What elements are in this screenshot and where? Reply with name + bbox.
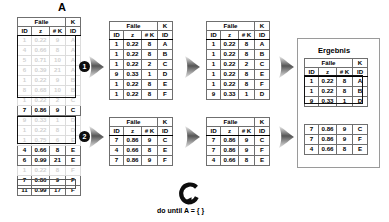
cell-z: 0.66	[32, 146, 50, 156]
table-row: 10.228B	[110, 50, 173, 60]
table-row: 40.668E	[207, 156, 270, 166]
step-badge-1: 1	[79, 61, 90, 72]
table-row: 40.668E	[305, 145, 368, 155]
header-id: ID	[110, 127, 124, 136]
cell-z: 0.22	[221, 60, 239, 70]
cell-kid: F	[66, 166, 81, 176]
stage2-bottom-header-group: Fälle K	[110, 118, 173, 127]
header-k: K	[158, 118, 173, 127]
table-row: 70.869F	[18, 176, 81, 186]
cell-z: 0.75	[32, 136, 50, 146]
header-k: K	[158, 22, 173, 31]
cell-kcount: 8	[337, 87, 353, 97]
cell-kid: D	[66, 116, 81, 126]
cell-z: 0.22	[124, 90, 142, 100]
cell-id: 1	[18, 36, 32, 46]
table-row: 70.869C	[207, 136, 270, 146]
header-kcount: # K	[142, 31, 158, 40]
cell-z: 0.66	[319, 145, 337, 155]
loop-caption: do until A = { }	[157, 207, 204, 214]
table-stage3-top: Fälle K ID z # K ID 10.228A10.228B10.222…	[206, 21, 270, 100]
cell-kcount: 8	[142, 90, 158, 100]
cell-z: 0.22	[32, 96, 50, 106]
cell-z: 0.22	[32, 166, 50, 176]
cell-kid: E	[66, 156, 81, 166]
cell-id: 1	[207, 50, 221, 60]
header-kcount: # K	[142, 127, 158, 136]
cell-id: 4	[305, 145, 319, 155]
cell-id: 7	[305, 125, 319, 135]
cell-kid: F	[158, 156, 173, 166]
result-top-header-sub: ID z # K ID	[305, 68, 368, 77]
table-row: 90.331D	[110, 70, 173, 80]
stage2-top-header-sub: ID z # K ID	[110, 31, 173, 40]
cell-kcount: 1	[142, 70, 158, 80]
stage3-bottom-body: 70.869C70.869F40.668E	[207, 136, 270, 166]
cell-kid: E	[158, 80, 173, 90]
cell-z: 0.33	[32, 116, 50, 126]
cell-z: 0.99	[32, 156, 50, 166]
header-kcount: # K	[337, 68, 353, 77]
source-table-label: A	[58, 1, 66, 13]
header-kid: ID	[255, 127, 270, 136]
stage2-top-body: 10.228A10.228B10.222C90.331D10.228E10.22…	[110, 40, 173, 100]
header-cases: Fälle	[110, 22, 158, 31]
cell-kid: F	[66, 176, 81, 186]
table-stage3-bottom: Fälle K ID z # K ID 70.869C70.869F40.668…	[206, 117, 270, 166]
cell-kid: C	[255, 60, 270, 70]
cell-id: 5	[18, 56, 32, 66]
cell-kcount: 8	[50, 166, 66, 176]
cell-kcount: 9	[239, 136, 255, 146]
cell-kcount: 9	[239, 146, 255, 156]
cell-id: 7	[110, 136, 124, 146]
table-a-header-group: Fälle K	[18, 18, 81, 27]
cell-id: 6	[18, 156, 32, 166]
cell-kid: C	[158, 60, 173, 70]
table-row: 10.228F	[207, 80, 270, 90]
table-row: 80.6810B	[18, 86, 81, 96]
cell-id: 1	[18, 96, 32, 106]
cell-kid: B	[158, 50, 173, 60]
header-kcount: # K	[50, 27, 66, 36]
table-row: 60.9921E	[18, 156, 81, 166]
cell-id: 1	[207, 40, 221, 50]
table-row: 10.756E	[18, 136, 81, 146]
table-row: 70.869F	[305, 135, 368, 145]
cell-kid: A	[66, 36, 81, 46]
header-k: K	[66, 18, 81, 27]
arrow-stage2-top	[184, 52, 201, 82]
table-result-top: Fälle K ID z # K ID 10.228A10.228B90.331…	[304, 58, 368, 107]
table-row: 10.222C	[207, 60, 270, 70]
table-row: 40.668A	[18, 46, 81, 56]
cell-kid: E	[255, 156, 270, 166]
cell-z: 0.86	[124, 156, 142, 166]
cell-z: 0.33	[319, 97, 337, 107]
cell-kcount: 8	[142, 40, 158, 50]
cell-kcount: 8	[239, 80, 255, 90]
cell-z: 0.22	[221, 80, 239, 90]
cell-kid: F	[255, 80, 270, 90]
cell-kcount: 2	[142, 60, 158, 70]
cell-z: 0.22	[124, 60, 142, 70]
cell-z: 0.86	[221, 146, 239, 156]
header-z: z	[32, 27, 50, 36]
cell-kcount: 6	[50, 136, 66, 146]
cell-id: 1	[207, 60, 221, 70]
cell-id: 1	[110, 90, 124, 100]
cell-id: 9	[18, 116, 32, 126]
table-row: 10.228A	[207, 40, 270, 50]
cell-kcount: 21	[50, 66, 66, 76]
cell-id: 4	[18, 146, 32, 156]
cell-kcount: 8	[142, 50, 158, 60]
table-row: 10.222C	[110, 60, 173, 70]
cell-kid: B	[66, 76, 81, 86]
cell-kcount: 2	[50, 96, 66, 106]
cell-kcount: 8	[239, 40, 255, 50]
arrow-stage2-bottom	[184, 122, 201, 152]
cell-z: 0.71	[32, 56, 50, 66]
cell-z: 0.22	[32, 76, 50, 86]
cell-kcount: 9	[142, 156, 158, 166]
table-row: 10.228E	[110, 80, 173, 90]
cell-z: 0.86	[124, 136, 142, 146]
table-row: 90.331D	[305, 97, 368, 107]
